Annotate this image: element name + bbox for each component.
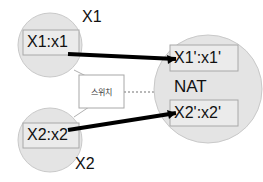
host1-address-label: X1:x1 <box>27 33 68 50</box>
host2-address-label: X2:x2 <box>27 126 68 143</box>
diagram-canvas: X1:x1 X2:x2 X1 X2 X1':x1' NAT X2':x2' 스위… <box>0 0 263 182</box>
nat-address-bottom-label: X2':x2' <box>174 104 221 121</box>
link-host2-to-nat <box>68 113 176 130</box>
host1-outer-label: X1 <box>82 8 102 25</box>
nat-address-top-label: X1':x1' <box>174 49 221 66</box>
nat-diagram: X1:x1 X2:x2 X1 X2 X1':x1' NAT X2':x2' 스위… <box>0 0 263 182</box>
switch-label: 스위치 <box>91 88 112 97</box>
link-host1-to-nat <box>68 54 176 59</box>
nat-label: NAT <box>174 77 207 96</box>
host2-outer-label: X2 <box>75 155 95 172</box>
